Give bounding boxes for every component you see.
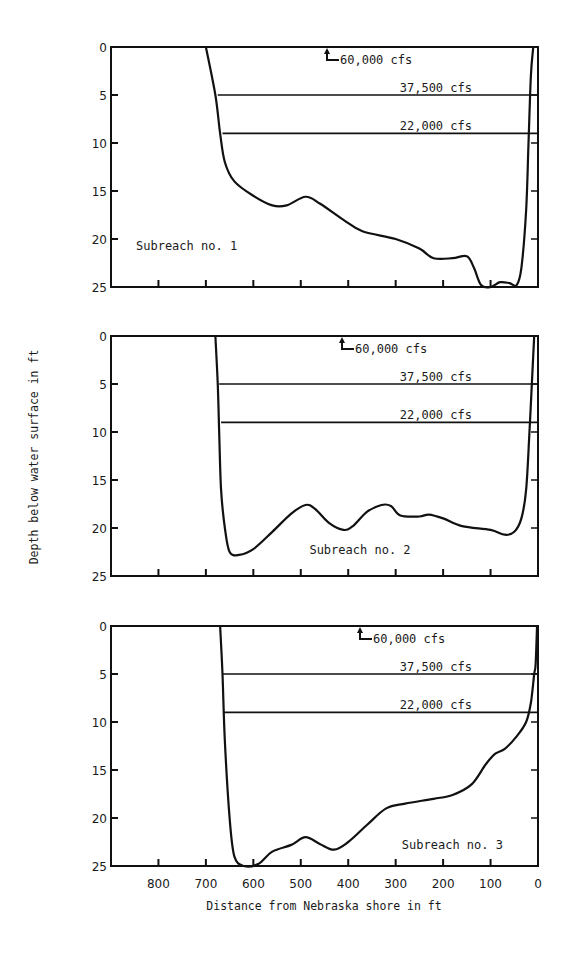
panel-frame	[111, 336, 538, 576]
arrowhead-icon	[339, 337, 345, 343]
y-tick-label: 15	[92, 185, 107, 199]
y-tick-label: 15	[92, 474, 107, 488]
panel-3: 051015202560,000 cfs37,500 cfs22,000 cfs…	[92, 620, 538, 874]
x-tick-label: 0	[534, 877, 542, 891]
x-tick-label: 300	[384, 877, 407, 891]
y-tick-label: 20	[92, 812, 107, 826]
subreach-label: Subreach no. 1	[136, 239, 237, 253]
bed-profile-line	[220, 626, 537, 867]
y-tick-label: 25	[92, 281, 107, 295]
flow-arrow-60000	[360, 629, 372, 639]
x-tick-label: 800	[147, 877, 170, 891]
x-tick-label: 600	[242, 877, 265, 891]
arrowhead-icon	[357, 627, 363, 633]
y-tick-label: 5	[99, 89, 107, 103]
flow-level-label: 22,000 cfs	[400, 119, 472, 133]
flow-level-label: 22,000 cfs	[400, 408, 472, 422]
flow-level-label: 37,500 cfs	[400, 660, 472, 674]
y-tick-label: 20	[92, 522, 107, 536]
flow-level-label: 37,500 cfs	[400, 370, 472, 384]
x-tick-label: 200	[432, 877, 455, 891]
flow-label-60000: 60,000 cfs	[355, 342, 427, 356]
y-tick-label: 10	[92, 716, 107, 730]
x-axis-title: Distance from Nebraska shore in ft	[206, 899, 441, 913]
y-tick-label: 15	[92, 764, 107, 778]
bed-profile-line	[206, 47, 533, 287]
flow-level-label: 37,500 cfs	[400, 81, 472, 95]
x-tick-label: 100	[479, 877, 502, 891]
x-tick-label: 500	[289, 877, 312, 891]
y-tick-label: 5	[99, 668, 107, 682]
panels: 051015202560,000 cfs37,500 cfs22,000 cfs…	[92, 41, 538, 874]
flow-label-60000: 60,000 cfs	[340, 53, 412, 67]
x-tick-label: 700	[194, 877, 217, 891]
subreach-label: Subreach no. 3	[402, 838, 503, 852]
y-tick-label: 10	[92, 426, 107, 440]
flow-arrow-60000	[342, 339, 354, 349]
y-tick-label: 0	[99, 330, 107, 344]
bed-profile-line	[215, 336, 534, 555]
subreach-label: Subreach no. 2	[309, 543, 410, 557]
x-tick-labels: 8007006005004003002001000	[147, 877, 542, 891]
y-axis-title: Depth below water surface in ft	[27, 350, 41, 565]
arrowhead-icon	[324, 48, 330, 54]
flow-level-label: 22,000 cfs	[400, 698, 472, 712]
flow-label-60000: 60,000 cfs	[373, 632, 445, 646]
y-tick-label: 25	[92, 570, 107, 584]
panel-frame	[111, 626, 538, 866]
y-tick-label: 20	[92, 233, 107, 247]
panel-1: 051015202560,000 cfs37,500 cfs22,000 cfs…	[92, 41, 538, 295]
y-tick-label: 25	[92, 860, 107, 874]
panel-2: 051015202560,000 cfs37,500 cfs22,000 cfs…	[92, 330, 538, 584]
flow-arrow-60000	[327, 50, 339, 60]
y-tick-label: 0	[99, 620, 107, 634]
x-tick-label: 400	[337, 877, 360, 891]
figure: 051015202560,000 cfs37,500 cfs22,000 cfs…	[0, 0, 570, 963]
y-tick-label: 0	[99, 41, 107, 55]
y-tick-label: 10	[92, 137, 107, 151]
y-tick-label: 5	[99, 378, 107, 392]
